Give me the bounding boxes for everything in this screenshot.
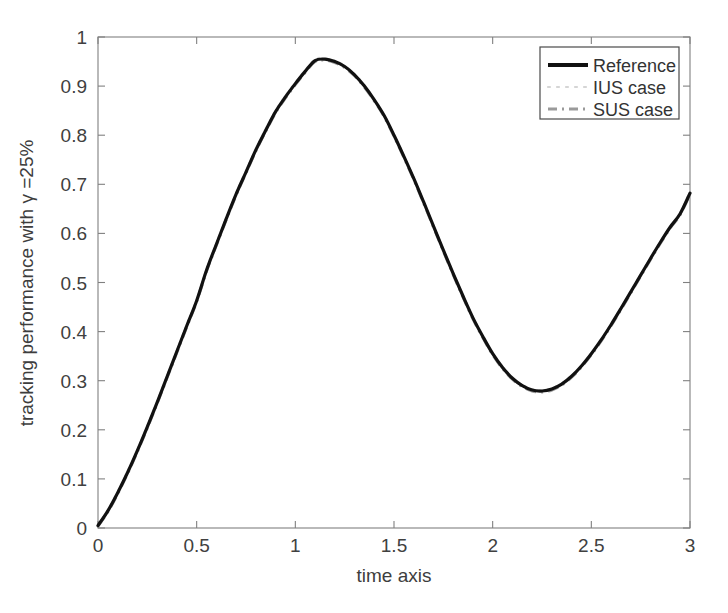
chart-svg: 00.511.522.53 00.10.20.30.40.50.60.70.80… bbox=[0, 0, 728, 613]
y-axis-label: tracking performance with γ =25% bbox=[16, 140, 37, 427]
x-tick-label: 0 bbox=[93, 535, 104, 556]
legend-label-ius-case: IUS case bbox=[593, 78, 666, 98]
x-axis-label: time axis bbox=[357, 565, 432, 586]
y-tick-label: 0.7 bbox=[61, 174, 87, 195]
y-tick-label: 1 bbox=[76, 27, 87, 48]
legend: Reference IUS case SUS case bbox=[540, 47, 679, 120]
y-tick-label: 0.6 bbox=[61, 223, 87, 244]
x-tick-label: 2 bbox=[487, 535, 498, 556]
x-tick-label: 2.5 bbox=[578, 535, 604, 556]
y-tick-label: 0.4 bbox=[61, 322, 88, 343]
y-tick-label: 0.8 bbox=[61, 125, 87, 146]
x-tick-label: 1.5 bbox=[381, 535, 407, 556]
x-tick-label: 3 bbox=[685, 535, 696, 556]
legend-label-reference: Reference bbox=[593, 56, 676, 76]
y-tick-label: 0.3 bbox=[61, 371, 87, 392]
legend-label-sus-case: SUS case bbox=[593, 100, 673, 120]
x-tick-label: 0.5 bbox=[183, 535, 209, 556]
y-tick-label: 0.9 bbox=[61, 76, 87, 97]
y-tick-label: 0 bbox=[76, 518, 87, 539]
y-tick-label: 0.5 bbox=[61, 273, 87, 294]
figure-canvas: 00.511.522.53 00.10.20.30.40.50.60.70.80… bbox=[0, 0, 728, 613]
x-tick-label: 1 bbox=[290, 535, 301, 556]
y-tick-label: 0.2 bbox=[61, 420, 87, 441]
y-tick-label: 0.1 bbox=[61, 469, 87, 490]
